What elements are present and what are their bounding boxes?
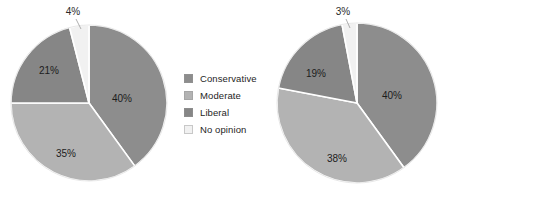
pie-svg-right: 40%38%19%3%	[268, 0, 537, 202]
legend-swatch-icon	[184, 125, 193, 134]
legend-item-label: Liberal	[200, 108, 229, 118]
slice-percentage-label: 35%	[56, 148, 76, 159]
slice-percentage-label: 38%	[327, 153, 347, 164]
slice-percentage-label: 3%	[336, 6, 351, 17]
legend-swatch-icon	[184, 108, 193, 117]
chart-panel-left: 40%35%21%4% ConservativeModerateLiberalN…	[0, 0, 269, 202]
pie-chart-figure: 40%35%21%4% ConservativeModerateLiberalN…	[0, 0, 537, 202]
slice-percentage-label: 40%	[112, 93, 132, 104]
legend-swatch-icon	[184, 74, 193, 83]
legend-item-moderate: Moderate	[184, 87, 257, 104]
legend-item-label: No opinion	[200, 125, 246, 135]
legend-item-conservative: Conservative	[184, 70, 257, 87]
chart-panel-right: 40%38%19%3% ConservativeModerateLiberalN…	[268, 0, 537, 202]
slice-percentage-label: 21%	[39, 65, 59, 76]
legend-item-label: Moderate	[200, 91, 241, 101]
legend-item-no-opinion: No opinion	[184, 121, 257, 138]
legend-item-liberal: Liberal	[184, 104, 257, 121]
slice-percentage-label: 19%	[306, 68, 326, 79]
legend-item-label: Conservative	[200, 74, 257, 84]
slice-percentage-label: 4%	[66, 6, 81, 17]
pie-chart-right: 40%38%19%3%	[268, 0, 537, 202]
legend-left: ConservativeModerateLiberalNo opinion	[184, 70, 257, 138]
slice-percentage-label: 40%	[382, 90, 402, 101]
legend-swatch-icon	[184, 91, 193, 100]
